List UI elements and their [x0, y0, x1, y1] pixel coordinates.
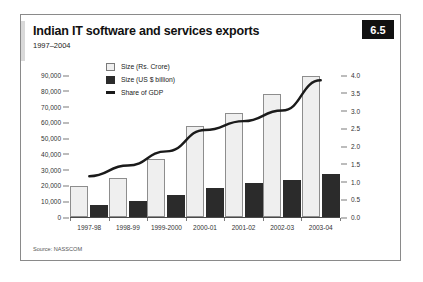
y-tick-left: 80,000: [41, 87, 70, 94]
x-tick-label: 2002-03: [270, 224, 294, 231]
y-tick-right: 1.5: [340, 160, 360, 167]
y-tick-right: 3.0: [340, 107, 360, 114]
x-tick-mark: [186, 218, 187, 221]
x-tick-mark: [224, 218, 225, 221]
x-tick-mark: [109, 218, 110, 221]
y-tick-left: 40,000: [41, 150, 70, 157]
y-tick-right: 1.0: [340, 178, 360, 185]
x-tick-mark: [301, 218, 302, 221]
y-tick-right: 2.0: [340, 143, 360, 150]
x-tick-mark: [340, 218, 341, 221]
y-tick-left: 90,000: [41, 72, 70, 79]
y-tick-left: 50,000: [41, 135, 70, 142]
y-tick-right: 0.5: [340, 196, 360, 203]
x-tick-mark: [70, 218, 71, 221]
y-tick-right: 2.5: [340, 125, 360, 132]
x-tick-mark: [263, 218, 264, 221]
x-tick-mark: [147, 218, 148, 221]
chart-plot-area: 010,00020,00030,00040,00050,00060,00070,…: [70, 60, 340, 217]
y-tick-right: 4.0: [340, 72, 360, 79]
source-note: Source: NASSCOM: [33, 246, 82, 252]
y-tick-left: 60,000: [41, 119, 70, 126]
figure-panel: Indian IT software and services exports …: [20, 14, 401, 261]
y-tick-right: 3.5: [340, 89, 360, 96]
x-axis-line: [70, 217, 340, 218]
x-tick-label: 2001-02: [232, 224, 256, 231]
y-tick-left: 30,000: [41, 166, 70, 173]
chart-inner: 010,00020,00030,00040,00050,00060,00070,…: [70, 75, 340, 217]
share-of-gdp-line: [70, 75, 340, 217]
y-tick-left: 20,000: [41, 182, 70, 189]
x-tick-label: 2003-04: [309, 224, 333, 231]
y-tick-left: 10,000: [41, 198, 70, 205]
y-tick-right: 0.0: [340, 214, 360, 221]
x-tick-label: 1998-99: [116, 224, 140, 231]
x-tick-label: 2000-01: [193, 224, 217, 231]
title-accent-bar: [21, 21, 25, 61]
page-title: Indian IT software and services exports: [33, 24, 259, 38]
x-tick-label: 1997-98: [77, 224, 101, 231]
figure-subtitle: 1997–2004: [33, 41, 71, 50]
y-tick-left: 0: [57, 214, 70, 221]
y-tick-left: 70,000: [41, 103, 70, 110]
figure-number-badge: 6.5: [362, 20, 394, 39]
x-tick-label: 1999-2000: [151, 224, 182, 231]
